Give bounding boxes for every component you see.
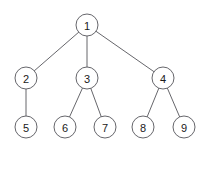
tree-node-2[interactable]: 2 xyxy=(15,67,37,89)
tree-node-6[interactable]: 6 xyxy=(54,116,76,138)
tree-node-8[interactable]: 8 xyxy=(132,116,154,138)
tree-node-label-2: 2 xyxy=(23,73,29,85)
tree-node-label-5: 5 xyxy=(23,122,29,134)
tree-diagram-figure: 123456789 xyxy=(0,0,209,173)
node-layer: 123456789 xyxy=(15,14,195,138)
tree-node-9[interactable]: 9 xyxy=(173,116,195,138)
tree-edge-3-7 xyxy=(91,88,101,116)
tree-node-label-3: 3 xyxy=(84,73,90,85)
tree-node-label-6: 6 xyxy=(62,122,68,134)
tree-edge-3-6 xyxy=(70,88,83,117)
tree-node-label-1: 1 xyxy=(84,20,90,32)
tree-node-label-8: 8 xyxy=(140,122,146,134)
tree-node-7[interactable]: 7 xyxy=(94,116,116,138)
tree-edge-1-4 xyxy=(96,31,154,71)
tree-edge-1-2 xyxy=(34,32,78,71)
tree-node-label-4: 4 xyxy=(160,73,166,85)
tree-node-label-9: 9 xyxy=(181,122,187,134)
tree-node-5[interactable]: 5 xyxy=(15,116,37,138)
tree-node-label-7: 7 xyxy=(102,122,108,134)
tree-node-1[interactable]: 1 xyxy=(76,14,98,36)
tree-edge-4-9 xyxy=(167,88,179,117)
tree-edge-4-8 xyxy=(147,88,159,117)
tree-diagram-canvas: 123456789 xyxy=(0,0,209,173)
tree-node-3[interactable]: 3 xyxy=(76,67,98,89)
tree-node-4[interactable]: 4 xyxy=(152,67,174,89)
